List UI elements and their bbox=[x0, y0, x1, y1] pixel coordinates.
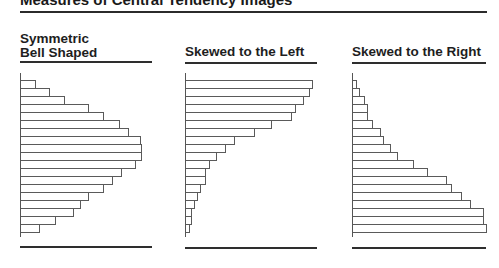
baseline-rule bbox=[185, 247, 317, 249]
histogram-bar bbox=[353, 224, 487, 233]
panel-heading: Skewed to the Left bbox=[185, 44, 304, 59]
baseline-rule bbox=[352, 247, 486, 249]
panel-heading: Skewed to the Right bbox=[352, 44, 481, 59]
heading-underline bbox=[352, 62, 486, 64]
heading-underline bbox=[185, 62, 317, 64]
panel-symmetric: Symmetric Bell Shaped bbox=[20, 0, 154, 268]
panel-skewed-left: Skewed to the Left bbox=[185, 0, 319, 268]
panel-skewed-right: Skewed to the Right bbox=[352, 0, 486, 268]
histogram-bars bbox=[21, 81, 142, 233]
heading-underline bbox=[20, 61, 152, 63]
histogram-bar bbox=[186, 224, 190, 233]
histogram-bars bbox=[186, 81, 313, 233]
baseline-rule bbox=[20, 246, 152, 248]
panel-heading-line2: Bell Shaped bbox=[20, 45, 97, 60]
histogram-bar bbox=[21, 224, 40, 233]
histogram-bars bbox=[353, 81, 487, 233]
panel-heading-line1: Symmetric bbox=[20, 31, 89, 46]
